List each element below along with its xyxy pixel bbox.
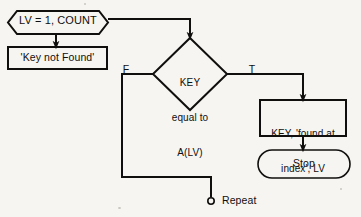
scan-speck — [84, 3, 86, 5]
node-key-not-found-label: 'Key not Found' — [10, 51, 105, 63]
edge-true-branch — [227, 74, 303, 98]
flowchart-canvas: LV = 1, COUNT 'Key not Found' KEY equal … — [0, 0, 361, 217]
node-decision-line-2: equal to — [160, 112, 220, 124]
node-decision-line-3: A(LV) — [160, 147, 220, 159]
node-decision-line-1: KEY — [160, 77, 220, 89]
node-loop-init-label: LV = 1, COUNT — [14, 14, 102, 27]
edge-label-repeat: Repeat — [222, 194, 278, 206]
node-found-at-index-line-1: KEY, 'found at — [261, 128, 345, 140]
node-stop-label: Stop — [262, 157, 346, 169]
edge-init-to-decision — [108, 19, 190, 36]
edge-label-true: T — [246, 63, 258, 75]
scan-speck — [118, 207, 121, 209]
node-decision-label: KEY equal to A(LV) — [160, 53, 220, 183]
scan-speck — [340, 188, 342, 190]
node-repeat-connector-shape — [208, 198, 214, 204]
edge-label-false: F — [120, 63, 132, 75]
node-found-at-index-label: KEY, 'found at index', LV — [261, 104, 345, 198]
